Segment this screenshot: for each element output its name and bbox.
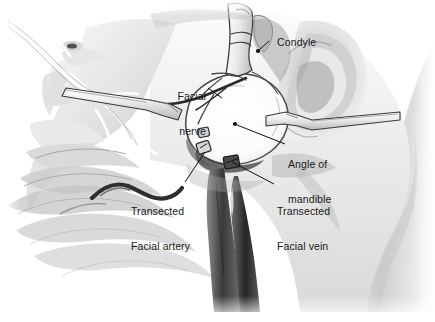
label-transected-facial-artery: Transected Facial artery [131,183,190,275]
dot-condyle [256,49,260,53]
anatomical-illustration [0,0,435,322]
dot-angle-of-mandible [233,122,237,126]
facial-vein-stump [223,155,240,169]
illustration-canvas: Condyle Facial nerve Angle of mandible T… [0,0,435,322]
label-condyle: Condyle [265,25,316,60]
label-transected-facial-vein: Transected Facial vein [277,183,330,275]
label-facial-nerve: Facial nerve [146,68,206,160]
